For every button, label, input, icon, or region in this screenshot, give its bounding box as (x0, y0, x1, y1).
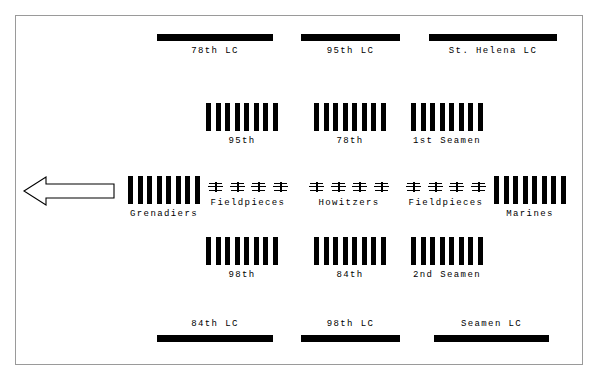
unit-2nd-seamen[interactable]: 2nd Seamen (411, 237, 483, 281)
fieldpiece-icon (406, 180, 421, 194)
unit-top-lc-2[interactable]: 95th LC (301, 34, 400, 57)
unit-fieldpieces-left[interactable]: Fieldpieces (208, 179, 288, 209)
unit-label: 84th (314, 270, 386, 281)
infantry-block (206, 237, 278, 265)
left-arrow-icon (22, 173, 117, 209)
infantry-block (128, 176, 200, 204)
infantry-block (314, 103, 386, 131)
infantry-block (314, 237, 386, 265)
unit-label: Fieldpieces (208, 198, 288, 209)
infantry-block (411, 103, 483, 131)
unit-label: St. Helena LC (429, 46, 557, 57)
light-company-bar (157, 335, 273, 342)
light-company-bar (434, 335, 549, 342)
howitzer-icon (309, 180, 324, 194)
howitzer-icon (352, 180, 367, 194)
howitzer-icon (331, 180, 346, 194)
fieldpiece-icon (428, 180, 443, 194)
unit-top-lc-1[interactable]: 78th LC (157, 34, 273, 57)
fieldpiece-icon (449, 180, 464, 194)
infantry-block (411, 237, 483, 265)
fieldpiece-icon (251, 180, 266, 194)
light-company-bar (429, 34, 557, 41)
unit-label: 78th LC (157, 46, 273, 57)
unit-95th[interactable]: 95th (206, 103, 278, 147)
diagram-frame: 78th LC 95th LC St. Helena LC 95th 78th (15, 15, 583, 365)
fieldpiece-icon (208, 180, 223, 194)
unit-bottom-lc-2[interactable]: 98th LC (301, 319, 400, 342)
artillery-group (208, 179, 288, 195)
light-company-bar (301, 335, 400, 342)
light-company-bar (301, 34, 400, 41)
unit-1st-seamen[interactable]: 1st Seamen (411, 103, 483, 147)
unit-78th[interactable]: 78th (314, 103, 386, 147)
unit-bottom-lc-1[interactable]: 84th LC (157, 319, 273, 342)
unit-label: Marines (494, 209, 566, 220)
unit-label: 1st Seamen (411, 136, 483, 147)
unit-98th[interactable]: 98th (206, 237, 278, 281)
unit-fieldpieces-right[interactable]: Fieldpieces (406, 179, 486, 209)
fieldpiece-icon (471, 180, 486, 194)
unit-label: Howitzers (309, 198, 389, 209)
direction-of-advance-arrow (22, 173, 117, 214)
howitzer-icon (374, 180, 389, 194)
unit-label: 95th (206, 136, 278, 147)
unit-bottom-lc-3[interactable]: Seamen LC (434, 319, 549, 342)
unit-label: 98th LC (301, 319, 400, 330)
unit-grenadiers[interactable]: Grenadiers (128, 176, 200, 220)
unit-top-lc-3[interactable]: St. Helena LC (429, 34, 557, 57)
infantry-block (494, 176, 566, 204)
light-company-bar (157, 34, 273, 41)
unit-label: 98th (206, 270, 278, 281)
unit-label: Fieldpieces (406, 198, 486, 209)
fieldpiece-icon (273, 180, 288, 194)
fieldpiece-icon (230, 180, 245, 194)
unit-label: Grenadiers (128, 209, 200, 220)
unit-label: 95th LC (301, 46, 400, 57)
unit-marines[interactable]: Marines (494, 176, 566, 220)
unit-label: 84th LC (157, 319, 273, 330)
unit-howitzers[interactable]: Howitzers (309, 179, 389, 209)
unit-84th[interactable]: 84th (314, 237, 386, 281)
artillery-group (309, 179, 389, 195)
artillery-group (406, 179, 486, 195)
unit-label: Seamen LC (434, 319, 549, 330)
unit-label: 78th (314, 136, 386, 147)
unit-label: 2nd Seamen (411, 270, 483, 281)
infantry-block (206, 103, 278, 131)
